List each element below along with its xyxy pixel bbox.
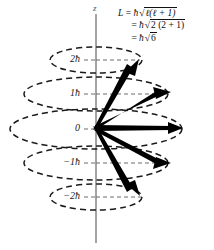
formula-radicand-1: ℓ(ℓ + 1) (144, 7, 176, 19)
formula-l-symbol: L (118, 8, 123, 18)
formula-radical-2: √2 (2 + 1) (144, 19, 185, 31)
vector-shaft-m-zero (95, 125, 172, 131)
formula-equals-3: = (131, 33, 136, 43)
tick-label-m-plus-1: 1ħ (58, 88, 80, 98)
angular-momentum-formula: L = ħ√ℓ(ℓ + 1) = ħ√2 (2 + 1) = ħ√6 (118, 7, 185, 44)
z-axis-label: z (93, 4, 97, 13)
formula-radical-3: √6 (144, 32, 157, 44)
formula-line-2: = ħ√2 (2 + 1) (118, 19, 185, 31)
formula-line-3: = ħ√6 (118, 32, 185, 44)
formula-equals-1: = (126, 8, 131, 18)
tick-label-m-minus-1: −1ħ (50, 157, 80, 167)
angular-momentum-diagram: z 2ħ 1ħ 0 −1ħ −2ħ L = ħ√ℓ(ℓ + 1) = ħ√2 (… (0, 0, 214, 250)
vector-arrowhead-m-plus-1 (153, 87, 171, 99)
vector-m-zero (95, 122, 183, 134)
formula-radicand-2: 2 (2 + 1) (150, 19, 185, 31)
formula-radicand-3: 6 (150, 32, 157, 44)
formula-line-1: L = ħ√ℓ(ℓ + 1) (118, 7, 185, 19)
vector-arrowhead-m-minus-1 (153, 157, 171, 169)
formula-radical-1: √ℓ(ℓ + 1) (138, 7, 176, 19)
vector-shaft-m-plus-2 (93, 64, 133, 130)
tick-label-m-plus-2: 2ħ (58, 54, 80, 64)
tick-label-m-minus-2: −2ħ (50, 191, 80, 201)
tick-label-m-zero: 0 (58, 123, 80, 133)
formula-equals-2: = (131, 20, 136, 30)
